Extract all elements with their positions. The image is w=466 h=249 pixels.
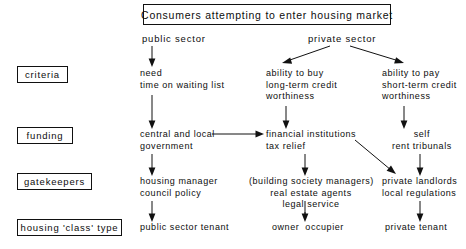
diagram-canvas: Consumers attempting to enter housing ma…: [0, 0, 466, 249]
class-type-public-sector-text: public sector tenant: [140, 222, 229, 234]
connector-gatekeepers-to-class: [0, 0, 466, 249]
class-type-private-buy-text: owner occupier: [272, 222, 344, 234]
class-type-private-rent-text: private tenant: [385, 222, 447, 234]
